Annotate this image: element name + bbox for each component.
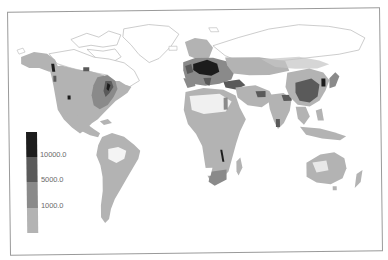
california	[53, 76, 56, 82]
legend-colorbar	[26, 132, 38, 233]
texas-spot	[68, 96, 71, 100]
legend-label-10000: 10000.0	[40, 150, 66, 159]
world-map	[0, 0, 388, 260]
legend-class-4	[26, 132, 37, 157]
legend-class-1	[27, 208, 38, 233]
south-india	[276, 119, 280, 127]
nile	[224, 98, 228, 110]
map-figure: 10000.0 5000.0 1000.0	[0, 0, 388, 260]
tasmania	[333, 186, 337, 190]
svalbard	[209, 28, 219, 32]
legend-class-3	[26, 157, 37, 182]
legend-label-5000: 5000.0	[41, 175, 63, 184]
iceland	[169, 46, 177, 50]
legend-label-1000: 1000.0	[41, 201, 63, 210]
great-lakes	[83, 67, 89, 71]
legend-class-2	[27, 182, 38, 208]
korea	[321, 78, 325, 86]
